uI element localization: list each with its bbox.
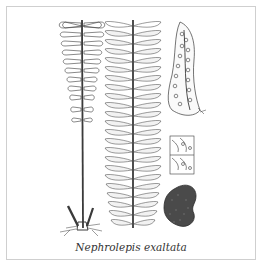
sori-detail	[170, 136, 194, 174]
botanical-illustration	[0, 0, 262, 269]
species-caption: Nephrolepis exaltata	[0, 241, 262, 253]
frond-detailed	[105, 20, 161, 228]
frond-outline	[59, 20, 105, 236]
sorus-scale	[164, 185, 196, 226]
pinna-sori	[168, 22, 206, 115]
